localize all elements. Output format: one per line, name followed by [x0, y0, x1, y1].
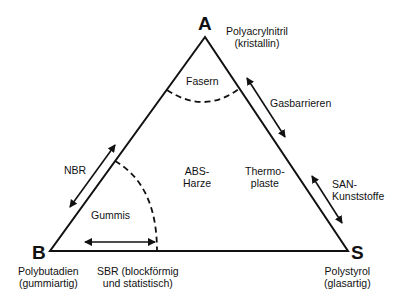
fasern-boundary	[167, 88, 240, 102]
vertex-b-label: B	[32, 243, 46, 263]
nbr-arrow	[70, 145, 115, 207]
region-thermoplaste: Thermo- plaste	[245, 165, 285, 189]
label-sbr: SBR (blockförmig und statistisch)	[97, 265, 179, 289]
region-fasern: Fasern	[186, 75, 219, 87]
vertex-a-description: Polyacrylnitril (kristallin)	[226, 25, 288, 49]
region-abs-harze: ABS- Harze	[183, 165, 211, 189]
label-san-kunststoffe: SAN- Kunststoffe	[332, 178, 384, 202]
ternary-diagram	[0, 0, 405, 306]
vertex-s-label: S	[351, 243, 364, 263]
vertex-a-label: A	[198, 14, 212, 34]
label-gasbarrieren: Gasbarrieren	[270, 97, 331, 109]
gummis-boundary	[115, 161, 157, 251]
label-nbr: NBR	[64, 164, 86, 176]
region-gummis: Gummis	[91, 209, 130, 221]
vertex-s-description: Polystyrol (glasartig)	[324, 265, 371, 289]
vertex-b-description: Polybutadien (gummiartig)	[18, 265, 79, 289]
